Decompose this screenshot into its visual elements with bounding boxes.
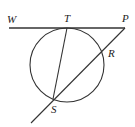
label-s: S	[51, 103, 57, 115]
label-t: T	[64, 12, 71, 24]
circle	[30, 28, 104, 102]
geometry-diagram: W T P R S	[0, 0, 135, 127]
label-w: W	[7, 13, 17, 25]
secant-line-ps	[31, 28, 125, 123]
label-p: P	[121, 12, 129, 24]
label-r: R	[107, 47, 115, 59]
